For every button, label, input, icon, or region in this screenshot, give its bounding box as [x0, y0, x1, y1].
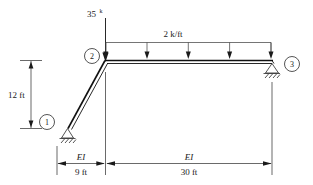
member-horizontal-beam [105, 61, 274, 64]
distributed-load-arrow [227, 43, 232, 60]
left-span-stiffness-label: EI [76, 152, 86, 162]
left-span-length-label: 9 ft [75, 167, 88, 177]
frame-diagram-canvas: 12 ft 35 k [0, 0, 313, 185]
support-pin-joint-1 [60, 129, 77, 144]
joint-marker-2: 2 [85, 49, 100, 64]
distributed-load-arrow [186, 43, 191, 60]
horizontal-dimension-30ft [106, 161, 271, 166]
distributed-load-arrow [269, 43, 274, 60]
joint-marker-1: 1 [40, 115, 55, 130]
support-roller-joint-3 [264, 64, 281, 79]
joint-label-3: 3 [290, 60, 294, 69]
vertical-dimension-label: 12 ft [8, 90, 25, 100]
point-load-unit: k [100, 8, 103, 14]
point-load-value: 35 [87, 9, 97, 19]
joint-label-1: 1 [45, 118, 49, 127]
member-inclined-column [68, 61, 108, 130]
distributed-load-arrow [145, 43, 150, 60]
dimension-extension-lines [57, 72, 272, 175]
horizontal-dimension-9ft [58, 161, 105, 166]
distributed-load-group [103, 43, 273, 60]
joint-label-2: 2 [90, 52, 94, 61]
joint-marker-3: 3 [285, 57, 300, 72]
right-span-length-label: 30 ft [181, 167, 198, 177]
distributed-load-label: 2 k/ft [163, 29, 183, 39]
right-span-stiffness-label: EI [184, 152, 194, 162]
